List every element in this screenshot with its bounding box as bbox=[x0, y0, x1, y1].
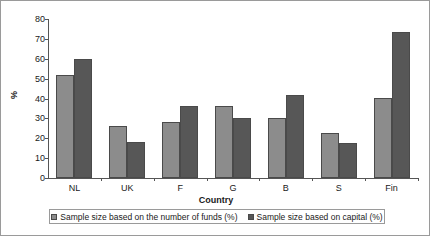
bar-nl-series1 bbox=[74, 59, 92, 178]
x-tick-label-g: G bbox=[229, 183, 236, 193]
bar-f-series0 bbox=[162, 122, 180, 178]
x-tick-label-b: B bbox=[283, 183, 289, 193]
legend-entry-series1[interactable]: Sample size based on capital (%) bbox=[248, 212, 383, 222]
legend-swatch-icon bbox=[248, 214, 254, 220]
legend-label: Sample size based on capital (%) bbox=[257, 212, 383, 222]
y-tick-label: 50 bbox=[1, 74, 45, 83]
x-tick-label-nl: NL bbox=[69, 183, 81, 193]
y-tick-label: 40 bbox=[1, 94, 45, 103]
bar-g-series1 bbox=[233, 118, 251, 178]
x-tick-label-f: F bbox=[177, 183, 183, 193]
legend-swatch-icon bbox=[51, 214, 57, 220]
bar-b-series0 bbox=[268, 118, 286, 178]
x-axis-line bbox=[48, 178, 419, 179]
bar-chart: % 01020304050607080 NLUKFGBSFin Country … bbox=[0, 0, 430, 236]
bar-fin-series1 bbox=[392, 32, 410, 178]
y-tick-label: 80 bbox=[1, 15, 45, 24]
legend-entry-series0[interactable]: Sample size based on the number of funds… bbox=[51, 212, 237, 222]
x-tick-label-fin: Fin bbox=[385, 183, 398, 193]
bar-f-series1 bbox=[180, 106, 198, 178]
x-axis-title: Country bbox=[1, 195, 430, 205]
bar-g-series0 bbox=[215, 106, 233, 178]
y-tick-label: 20 bbox=[1, 134, 45, 143]
bar-uk-series1 bbox=[127, 142, 145, 178]
x-tick-mark bbox=[418, 178, 419, 181]
bar-uk-series0 bbox=[109, 126, 127, 178]
x-tick-mark bbox=[101, 178, 102, 181]
bar-fin-series0 bbox=[374, 98, 392, 178]
chart-legend: Sample size based on the number of funds… bbox=[49, 209, 385, 224]
x-tick-mark bbox=[365, 178, 366, 181]
x-tick-label-uk: UK bbox=[121, 183, 134, 193]
x-tick-mark bbox=[259, 178, 260, 181]
x-tick-mark bbox=[154, 178, 155, 181]
bar-s-series0 bbox=[321, 133, 339, 178]
x-tick-label-s: S bbox=[336, 183, 342, 193]
bar-nl-series0 bbox=[56, 75, 74, 178]
y-tick-label: 30 bbox=[1, 114, 45, 123]
y-tick-label: 0 bbox=[1, 174, 45, 183]
y-tick-label: 10 bbox=[1, 154, 45, 163]
y-tick-label: 70 bbox=[1, 34, 45, 43]
bar-s-series1 bbox=[339, 143, 357, 178]
y-tick-label: 60 bbox=[1, 54, 45, 63]
bar-b-series1 bbox=[286, 95, 304, 178]
x-tick-mark bbox=[312, 178, 313, 181]
legend-label: Sample size based on the number of funds… bbox=[60, 212, 237, 222]
x-tick-mark bbox=[207, 178, 208, 181]
